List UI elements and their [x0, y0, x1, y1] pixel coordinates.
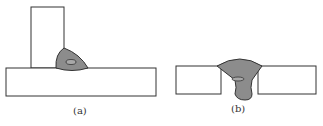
weld-diagram: [0, 0, 323, 126]
figure-a-t-joint: [6, 7, 156, 96]
weld-pore: [232, 77, 244, 81]
left-plate: [176, 66, 221, 94]
horizontal-plate: [6, 68, 156, 96]
figure-a-label: (a): [73, 105, 87, 116]
figure-b-label: (b): [231, 103, 245, 114]
right-plate: [258, 66, 316, 94]
weld-pore: [66, 60, 76, 65]
figure-b-butt-weld: [176, 59, 316, 100]
